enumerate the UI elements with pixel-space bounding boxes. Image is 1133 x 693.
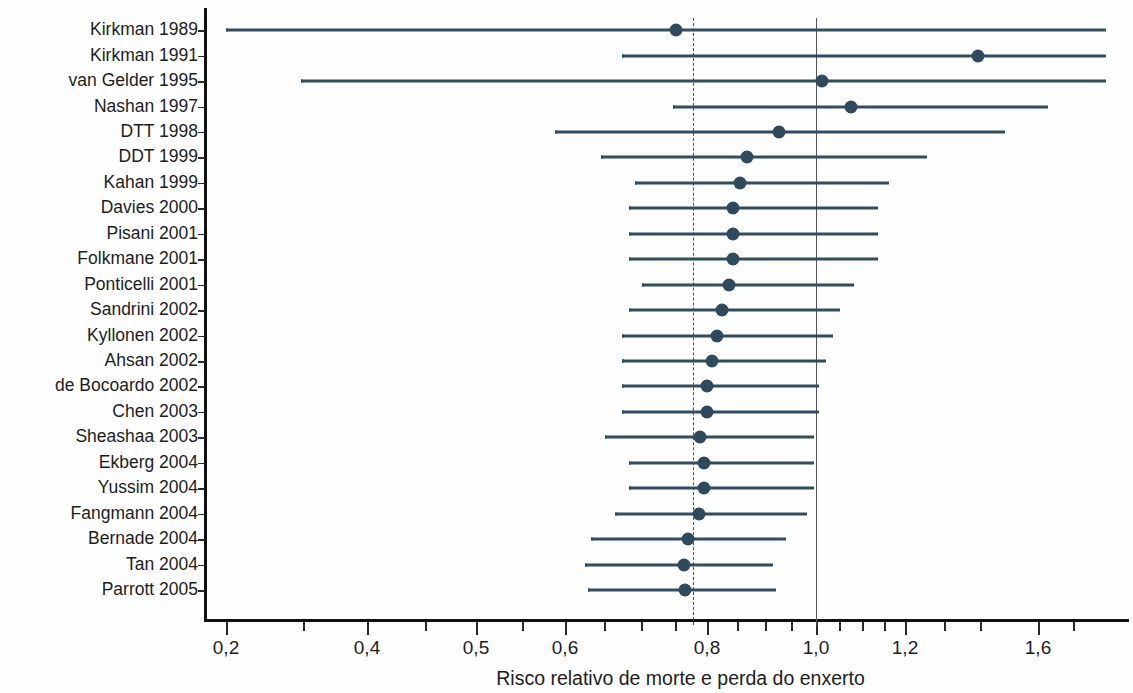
confidence-interval-cap	[622, 54, 624, 57]
point-estimate-marker[interactable]	[716, 304, 729, 317]
confidence-interval-cap	[591, 538, 593, 541]
x-axis-tick	[839, 622, 841, 631]
x-axis-tick	[1038, 622, 1040, 635]
study-label: Kirkman 1989	[90, 21, 198, 39]
point-estimate-marker[interactable]	[734, 176, 747, 189]
y-axis-tick	[198, 361, 205, 363]
forest-plot-figure: Kirkman 1989Kirkman 1991van Gelder 1995N…	[0, 0, 1133, 693]
confidence-interval-line	[226, 29, 1104, 32]
confidence-interval-cap	[622, 385, 624, 388]
confidence-interval-cap	[1003, 130, 1005, 133]
point-estimate-marker[interactable]	[682, 533, 695, 546]
x-axis-tick-label: 1,6	[1025, 637, 1051, 659]
point-estimate-marker[interactable]	[816, 75, 829, 88]
confidence-interval-cap	[925, 156, 927, 159]
point-estimate-marker[interactable]	[972, 49, 985, 62]
point-estimate-marker[interactable]	[727, 202, 740, 215]
x-axis-tick-label: 1,0	[803, 637, 829, 659]
point-estimate-marker[interactable]	[679, 584, 692, 597]
point-estimate-marker[interactable]	[698, 482, 711, 495]
y-axis-tick	[198, 463, 205, 465]
x-axis-tick	[522, 622, 524, 631]
x-axis-tick	[675, 622, 677, 631]
point-estimate-marker[interactable]	[723, 278, 736, 291]
x-axis-tick	[226, 622, 228, 635]
study-label: Bernade 2004	[88, 530, 198, 548]
y-axis-tick	[198, 285, 205, 287]
study-label: Sandrini 2002	[90, 301, 198, 319]
confidence-interval-line	[629, 258, 876, 261]
x-axis-tick	[367, 622, 369, 635]
x-axis-tick-label: 0,4	[354, 637, 380, 659]
study-label: van Gelder 1995	[69, 72, 198, 90]
study-label: Ekberg 2004	[99, 454, 198, 472]
confidence-interval-cap	[615, 512, 617, 515]
confidence-interval-line	[635, 181, 887, 184]
confidence-interval-cap	[771, 563, 773, 566]
point-estimate-marker[interactable]	[701, 405, 714, 418]
x-axis-tick	[565, 622, 567, 635]
confidence-interval-cap	[887, 181, 889, 184]
x-axis-tick	[862, 622, 864, 631]
x-axis-tick	[765, 622, 767, 631]
x-axis-tick-label: 0,8	[694, 637, 720, 659]
y-axis-tick	[198, 539, 205, 541]
confidence-interval-line	[622, 385, 817, 388]
confidence-interval-cap	[824, 360, 826, 363]
point-estimate-marker[interactable]	[845, 100, 858, 113]
study-label: Chen 2003	[112, 403, 198, 421]
y-axis-tick	[198, 30, 205, 32]
study-label: Tan 2004	[126, 556, 198, 574]
x-axis-tick	[476, 622, 478, 635]
study-label-column: Kirkman 1989Kirkman 1991van Gelder 1995N…	[0, 0, 198, 693]
x-axis-tick-label: 0,5	[463, 637, 489, 659]
point-estimate-marker[interactable]	[773, 125, 786, 138]
confidence-interval-line	[622, 54, 1104, 57]
confidence-interval-cap	[601, 156, 603, 159]
point-estimate-marker[interactable]	[698, 456, 711, 469]
confidence-interval-cap	[876, 207, 878, 210]
x-axis-tick	[905, 622, 907, 635]
point-estimate-marker[interactable]	[693, 507, 706, 520]
confidence-interval-cap	[1046, 105, 1048, 108]
point-estimate-marker[interactable]	[727, 227, 740, 240]
confidence-interval-cap	[876, 258, 878, 261]
confidence-interval-line	[642, 283, 852, 286]
study-label: Kyllonen 2002	[87, 327, 198, 345]
confidence-interval-cap	[555, 130, 557, 133]
point-estimate-marker[interactable]	[711, 329, 724, 342]
y-axis-tick	[198, 412, 205, 414]
study-label: Yussim 2004	[98, 479, 198, 497]
confidence-interval-cap	[1104, 80, 1106, 83]
x-axis-tick-label: 0,2	[213, 637, 239, 659]
point-estimate-marker[interactable]	[727, 253, 740, 266]
point-estimate-marker[interactable]	[670, 24, 683, 37]
confidence-interval-cap	[226, 29, 228, 32]
study-label: Davies 2000	[101, 199, 198, 217]
study-label: Folkmane 2001	[77, 250, 198, 268]
confidence-interval-cap	[812, 436, 814, 439]
confidence-interval-cap	[622, 334, 624, 337]
confidence-interval-cap	[1104, 54, 1106, 57]
point-estimate-marker[interactable]	[678, 558, 691, 571]
confidence-interval-cap	[629, 461, 631, 464]
confidence-interval-line	[601, 156, 925, 159]
confidence-interval-line	[629, 487, 812, 490]
confidence-interval-line	[629, 309, 838, 312]
point-estimate-marker[interactable]	[706, 355, 719, 368]
confidence-interval-cap	[831, 334, 833, 337]
point-estimate-marker[interactable]	[694, 431, 707, 444]
y-axis-tick	[198, 514, 205, 516]
confidence-interval-cap	[1104, 29, 1106, 32]
study-label: Parrott 2005	[102, 581, 198, 599]
x-axis-tick	[980, 622, 982, 631]
point-estimate-marker[interactable]	[701, 380, 714, 393]
confidence-interval-line	[629, 232, 876, 235]
x-axis-tick-label: 1,2	[892, 637, 918, 659]
y-axis-tick	[198, 208, 205, 210]
point-estimate-marker[interactable]	[741, 151, 754, 164]
confidence-interval-cap	[784, 538, 786, 541]
y-axis-tick	[198, 81, 205, 83]
y-axis-tick	[198, 107, 205, 109]
x-axis-spine	[204, 619, 1129, 622]
